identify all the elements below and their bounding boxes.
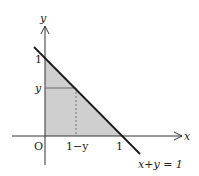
y-axis-label: y: [39, 12, 47, 25]
origin-label: O: [34, 140, 43, 153]
y-tick-one: 1: [35, 53, 42, 66]
x-tick-one: 1: [116, 140, 123, 153]
x-tick-one-minus-y: 1−y: [66, 140, 89, 153]
triangle-region-diagram: y x O 1 y 1−y 1 x+y = 1: [0, 0, 199, 176]
x-axis-label: x: [184, 130, 191, 143]
y-tick-var: y: [34, 82, 42, 95]
line-equation-label: x+y = 1: [138, 158, 183, 171]
